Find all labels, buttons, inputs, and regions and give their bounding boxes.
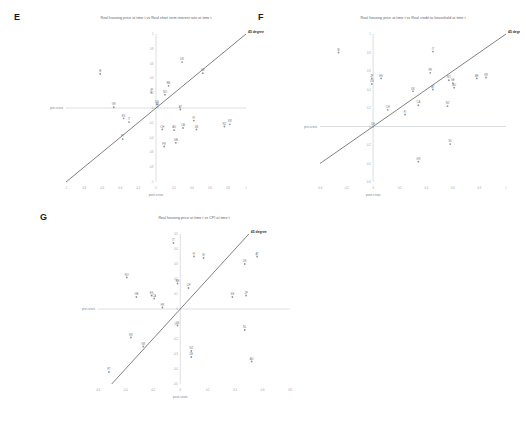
svg-text:JP: JP	[370, 74, 373, 78]
svg-text:SE: SE	[231, 292, 235, 296]
svg-text:FR: FR	[161, 303, 165, 307]
svg-text:post-crisis: post-crisis	[173, 395, 188, 399]
svg-text:0.6: 0.6	[451, 186, 455, 190]
svg-text:NZ: NZ	[446, 101, 450, 105]
svg-text:0.6: 0.6	[367, 69, 371, 73]
svg-text:GR: GR	[416, 157, 420, 161]
svg-text:CA: CA	[181, 123, 185, 127]
svg-text:0: 0	[180, 388, 182, 392]
panel-letter-e: E	[14, 12, 20, 22]
svg-text:0.8: 0.8	[367, 51, 371, 55]
svg-text:-0.2: -0.2	[344, 186, 349, 190]
svg-text:-0.4: -0.4	[123, 388, 128, 392]
svg-text:KR: KR	[129, 333, 133, 337]
svg-text:45 degree: 45 degree	[251, 230, 267, 234]
svg-text:GB: GB	[174, 138, 178, 142]
svg-text:-0.2: -0.2	[151, 388, 156, 392]
panel-title-e: Real housing price at time t vs Real sho…	[56, 16, 256, 20]
svg-text:0.4: 0.4	[367, 88, 371, 92]
svg-text:-0.6: -0.6	[149, 150, 154, 154]
svg-text:FI: FI	[404, 110, 407, 114]
svg-text:NO: NO	[125, 273, 129, 277]
panel-title-f: Real housing price at time t vs Real cre…	[310, 16, 516, 20]
svg-text:-0.8: -0.8	[82, 186, 87, 190]
svg-text:AT: AT	[255, 252, 259, 256]
svg-text:0.2: 0.2	[367, 106, 371, 110]
svg-text:-0.2: -0.2	[149, 121, 154, 125]
svg-text:CA: CA	[152, 294, 156, 298]
svg-text:DK: DK	[411, 87, 415, 91]
svg-text:BE: BE	[167, 81, 171, 85]
svg-text:AU: AU	[250, 357, 254, 361]
svg-text:0: 0	[155, 186, 157, 190]
svg-text:ES: ES	[122, 114, 126, 118]
svg-text:-0.6: -0.6	[100, 186, 105, 190]
svg-text:-0.3: -0.3	[173, 352, 178, 356]
svg-text:ES: ES	[379, 74, 383, 78]
panel-e: EReal housing price at time t vs Real sh…	[14, 8, 264, 208]
plot-area-f: -0.4-0.200.20.40.60.81-0.6-0.4-0.200.20.…	[258, 22, 520, 208]
svg-text:-0.2: -0.2	[173, 337, 178, 341]
svg-text:IT: IT	[128, 117, 131, 121]
svg-text:DE: DE	[371, 122, 375, 126]
svg-text:0.4: 0.4	[174, 247, 178, 251]
svg-text:AU: AU	[172, 125, 176, 129]
svg-text:1: 1	[245, 186, 247, 190]
svg-text:SE: SE	[201, 68, 205, 72]
svg-text:PT: PT	[107, 367, 111, 371]
panel-letter-f: F	[258, 12, 264, 22]
svg-text:-0.2: -0.2	[136, 186, 141, 190]
svg-text:-0.8: -0.8	[149, 165, 154, 169]
svg-text:GR: GR	[112, 102, 116, 106]
svg-text:1: 1	[152, 32, 154, 36]
svg-text:0.2: 0.2	[206, 388, 210, 392]
plot-area-e: -1-0.8-0.6-0.4-0.200.20.40.60.81-1-0.8-0…	[14, 22, 264, 208]
svg-text:0.8: 0.8	[478, 186, 482, 190]
svg-text:CH: CH	[386, 105, 390, 109]
svg-text:CA: CA	[416, 100, 420, 104]
svg-text:FI: FI	[193, 252, 196, 256]
svg-text:BE: BE	[176, 279, 180, 283]
svg-text:post-crisis: post-crisis	[149, 193, 164, 197]
svg-text:0.5: 0.5	[174, 232, 178, 236]
svg-text:0.4: 0.4	[150, 76, 154, 80]
panel-f: FReal housing price at time t vs Real cr…	[258, 8, 520, 208]
svg-text:-0.4: -0.4	[173, 367, 178, 371]
svg-text:CH: CH	[160, 125, 164, 129]
svg-text:AT: AT	[179, 105, 183, 109]
svg-text:CH: CH	[187, 283, 191, 287]
svg-text:-1: -1	[65, 186, 68, 190]
svg-text:0.4: 0.4	[190, 186, 194, 190]
svg-text:DE: DE	[189, 352, 193, 356]
svg-text:AU: AU	[452, 83, 456, 87]
svg-text:-0.5: -0.5	[173, 382, 178, 386]
svg-text:-0.4: -0.4	[318, 186, 323, 190]
svg-text:0: 0	[372, 186, 374, 190]
svg-text:NO: NO	[163, 90, 167, 94]
svg-text:KR: KR	[228, 119, 232, 123]
svg-text:0.2: 0.2	[398, 186, 402, 190]
svg-text:FR: FR	[162, 142, 166, 146]
svg-text:-0.2: -0.2	[366, 143, 371, 147]
svg-text:pre-crisis: pre-crisis	[82, 307, 95, 311]
svg-text:FI: FI	[193, 116, 196, 120]
svg-text:-0.4: -0.4	[366, 162, 371, 166]
svg-text:IE: IE	[337, 48, 340, 52]
svg-text:US: US	[370, 79, 374, 83]
svg-text:JP: JP	[245, 291, 248, 295]
svg-text:0.6: 0.6	[208, 186, 212, 190]
svg-text:0.8: 0.8	[150, 47, 154, 51]
svg-text:-1: -1	[151, 180, 154, 184]
svg-text:0.1: 0.1	[174, 292, 178, 296]
svg-text:post-crisis: post-crisis	[366, 193, 381, 197]
svg-text:NZ: NZ	[189, 346, 193, 350]
svg-text:KR: KR	[484, 73, 488, 77]
svg-text:IE: IE	[202, 253, 205, 257]
plot-area-g: -0.6-0.4-0.200.20.40.60.8-0.5-0.4-0.3-0.…	[40, 222, 300, 408]
svg-text:45 degree: 45 degree	[508, 30, 520, 34]
svg-text:0.4: 0.4	[424, 186, 428, 190]
svg-text:-0.6: -0.6	[96, 388, 101, 392]
svg-text:0.3: 0.3	[174, 262, 178, 266]
svg-text:IT: IT	[172, 238, 175, 242]
svg-text:BE: BE	[475, 74, 479, 78]
